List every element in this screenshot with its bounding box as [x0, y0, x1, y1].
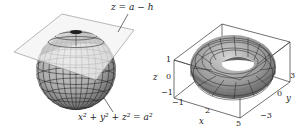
torus-graphic: [150, 0, 302, 134]
torus-figure: z 1 0 −1 −1 2 5 x −3 0 3 y: [150, 0, 302, 134]
y-tick-3: 3: [290, 72, 295, 80]
sphere-leader-line: [104, 98, 113, 112]
y-tick-neg3: −3: [260, 112, 272, 120]
plane-equation-label: z = a − h: [111, 3, 153, 12]
y-axis-label: y: [286, 94, 291, 103]
y-tick-0: 0: [277, 90, 282, 98]
z-axis-label: z: [153, 73, 157, 82]
x-tick-5: 5: [236, 120, 241, 128]
cutting-plane: [14, 14, 134, 80]
z-tick-0: 0: [166, 73, 171, 81]
x-tick-2: 2: [205, 107, 210, 115]
sphere-equation-label: x² + y² + z² = a²: [78, 113, 153, 122]
x-tick-neg1: −1: [172, 99, 184, 107]
x-axis-label: x: [199, 117, 204, 126]
z-tick-1: 1: [166, 56, 171, 64]
sphere-plane-figure: z = a − h x² + y² + z² = a²: [0, 0, 150, 134]
z-tick-neg1: −1: [161, 89, 173, 97]
